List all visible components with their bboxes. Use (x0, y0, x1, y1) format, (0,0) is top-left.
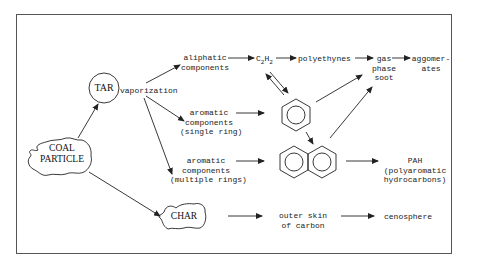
vaporization-label: vaporization (120, 86, 178, 96)
coal-particle-label: COAL PARTICLE (36, 143, 88, 165)
pah-label: PAH (polyaromatic hydrocarbons) (382, 156, 448, 185)
skin-line2: of carbon (268, 221, 338, 231)
arom-multi-line2: components (170, 166, 242, 176)
aromatic-multiple-rings-label: aromatic components (multiple rings) (170, 156, 242, 185)
arom-single-line3: (single ring) (180, 127, 238, 137)
arom-multi-line3: (multiple rings) (170, 175, 242, 185)
coal-label-line2: PARTICLE (36, 154, 88, 165)
aliphatic-components-label: aliphatic components (180, 53, 230, 72)
gas-phase-soot-label: gas phase soot (370, 54, 398, 83)
arom-single-line2: components (180, 118, 238, 128)
outer-skin-label: outer skin of carbon (268, 211, 338, 230)
naphthalene-ring-structure (280, 146, 336, 178)
arom-single-line1: aromatic (180, 108, 238, 118)
agg-line2: ates (410, 64, 452, 74)
cenosphere-label: cenosphere (384, 212, 432, 222)
aggomerates-label: aggomer- ates (410, 54, 452, 73)
char-label: CHAR (166, 210, 202, 222)
pah-line2: (polyaromatic (382, 166, 448, 176)
coal-label-line1: COAL (36, 143, 88, 154)
polyethynes-label: polyethynes (298, 54, 351, 64)
pah-line1: PAH (382, 156, 448, 166)
pah-line3: hydrocarbons) (382, 175, 448, 185)
aliphatic-line2: components (180, 63, 230, 73)
agg-line1: aggomer- (410, 54, 452, 64)
gas-line2: phase (370, 64, 398, 74)
skin-line1: outer skin (268, 211, 338, 221)
benzene-ring-structure (282, 99, 310, 131)
aromatic-single-ring-label: aromatic components (single ring) (180, 108, 238, 137)
c2h2-label: C2H2 (256, 54, 273, 67)
arom-multi-line1: aromatic (170, 156, 242, 166)
tar-label: TAR (92, 82, 116, 94)
gas-line3: soot (370, 73, 398, 83)
c2h2-sub2: 2 (269, 59, 273, 66)
aliphatic-line1: aliphatic (180, 53, 230, 63)
gas-line1: gas (370, 54, 398, 64)
